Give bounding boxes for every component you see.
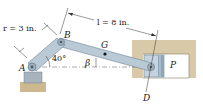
label-point-d: D [142,93,150,103]
label-point-a: A [18,63,26,73]
slider-crank-diagram: r = 3 in. B l = 8 in. G 40° β A P D [0,0,203,108]
label-rod-angle: β [84,58,90,68]
label-crank-angle: 40° [52,54,66,63]
center-of-mass-g [103,52,106,55]
label-piston-p: P [169,60,177,70]
ground-support [20,72,46,92]
label-crank-length: r = 3 in. [3,24,37,33]
label-point-b: B [63,30,71,40]
label-rod-length: l = 8 in. [97,18,129,27]
label-point-g: G [101,40,108,50]
